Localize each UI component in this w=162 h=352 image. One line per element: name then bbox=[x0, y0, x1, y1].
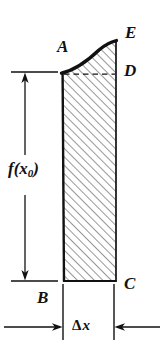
label-vertex-A: A bbox=[57, 38, 68, 55]
hatched-region bbox=[62, 41, 116, 281]
segment-AB bbox=[63, 73, 64, 282]
label-vertex-B: B bbox=[37, 289, 48, 306]
label-height-fx0: f(x0) bbox=[8, 160, 39, 179]
label-height-close: ) bbox=[33, 159, 39, 178]
x-symbol: x bbox=[81, 317, 90, 333]
label-vertex-D: D bbox=[124, 62, 136, 79]
label-height-main: f(x bbox=[8, 159, 28, 178]
figure-container: A B C D E f(x0) Δx bbox=[0, 0, 162, 352]
label-vertex-E: E bbox=[125, 24, 136, 41]
label-width-delta-x: Δx bbox=[72, 318, 90, 333]
delta-symbol: Δ bbox=[72, 317, 81, 333]
label-vertex-C: C bbox=[124, 275, 135, 292]
